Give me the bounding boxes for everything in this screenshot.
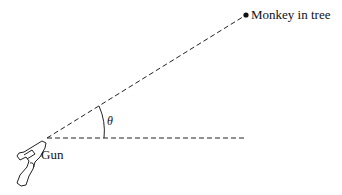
angle-arc (99, 106, 104, 138)
diagram-canvas (0, 0, 342, 195)
angle-label: θ (107, 114, 113, 129)
line-of-sight (47, 15, 246, 138)
gun-label: Gun (41, 147, 63, 163)
monkey-point (243, 12, 248, 17)
monkey-label: Monkey in tree (251, 7, 330, 23)
